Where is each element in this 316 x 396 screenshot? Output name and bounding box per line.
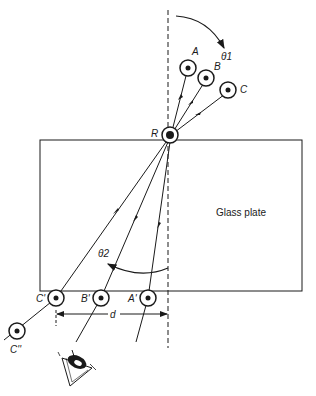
pin-r-label: R xyxy=(151,128,158,139)
pin-b xyxy=(198,70,214,86)
refraction-diagram: Glass plate θ1 A B C R θ2 xyxy=(0,0,316,396)
pin-a xyxy=(180,60,196,76)
theta1-arc xyxy=(176,16,224,48)
ray-c-refracted xyxy=(56,135,171,298)
pin-b-prime-label: B' xyxy=(81,293,91,304)
pin-c-label: C xyxy=(240,84,248,95)
theta2-label: θ2 xyxy=(98,248,109,259)
pin-b-label: B xyxy=(214,61,221,72)
pin-c xyxy=(220,82,236,98)
d-label: d xyxy=(110,309,116,320)
arrow-icon xyxy=(157,222,161,229)
arrow-icon xyxy=(195,112,201,115)
theta1-label: θ1 xyxy=(221,51,232,62)
pin-c-double-prime-label: C'' xyxy=(10,344,22,355)
theta2-arc xyxy=(108,264,168,273)
eye-icon xyxy=(58,350,96,386)
pin-b-prime xyxy=(93,290,109,306)
pin-a-label: A xyxy=(191,46,199,57)
glass-plate-label: Glass plate xyxy=(216,207,266,218)
pin-c-double-prime xyxy=(9,323,25,339)
pin-r xyxy=(162,127,178,143)
ray-a-refracted xyxy=(148,135,171,298)
pin-a-prime-label: A' xyxy=(127,293,138,304)
ray-a-incident xyxy=(171,68,188,135)
pin-c-prime-label: C' xyxy=(36,293,46,304)
arrow-icon xyxy=(133,215,138,222)
ray-b-incident xyxy=(171,78,207,135)
pin-c-prime xyxy=(48,290,64,306)
pin-a-prime xyxy=(140,290,156,306)
